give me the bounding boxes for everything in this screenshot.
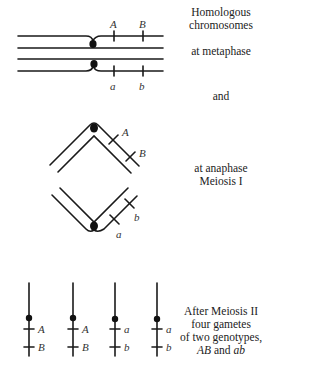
genotype-ab: ab <box>233 344 245 356</box>
label-gamete-3-locus1: a <box>124 323 130 335</box>
caption-anaphase: at anaphase Meiosis I <box>156 162 286 188</box>
centromere-icon <box>26 315 32 321</box>
label-anaphase-a: a <box>116 228 122 240</box>
caption-line: After Meiosis II <box>156 305 286 318</box>
caption-line: chromosomes <box>156 19 286 32</box>
centromere-icon <box>89 40 96 48</box>
caption-metaphase: Homologous chromosomes at metaphase <box>156 6 286 58</box>
label-gamete-1-locus1: A <box>37 323 45 335</box>
caption-and: and <box>211 344 233 356</box>
centromere-icon <box>90 124 98 133</box>
caption-connector: and <box>156 90 286 103</box>
caption-line: Homologous <box>156 6 286 19</box>
centromere-icon <box>90 60 97 68</box>
label-metaphase-b: b <box>139 80 145 92</box>
lower-inner-chromatid <box>60 188 128 222</box>
metaphase-chromosomes <box>18 31 163 76</box>
label-metaphase-a: a <box>110 80 116 92</box>
caption-line: AB and ab <box>156 344 286 357</box>
caption-line: at metaphase <box>156 45 286 58</box>
centromere-icon <box>70 315 76 321</box>
caption-line: and <box>156 90 286 103</box>
label-metaphase-A: A <box>109 18 117 30</box>
caption-line: of two genotypes, <box>156 331 286 344</box>
centromere-icon <box>112 316 118 322</box>
caption-line: Meiosis I <box>156 175 286 188</box>
chromatid-bottom-2 <box>18 66 163 71</box>
label-gamete-2-locus1: A <box>81 323 89 335</box>
genotype-AB: AB <box>197 344 211 356</box>
label-gamete-2-locus2: B <box>82 341 89 353</box>
label-anaphase-A: A <box>121 126 129 138</box>
centromere-icon <box>90 222 98 231</box>
label-anaphase-B: B <box>139 147 146 159</box>
label-metaphase-B: B <box>139 18 146 30</box>
caption-line: four gametes <box>156 318 286 331</box>
chromatid-top-1 <box>18 36 163 41</box>
caption-meiosis-2: After Meiosis II four gametes of two gen… <box>156 305 286 357</box>
label-gamete-1-locus2: B <box>38 341 45 353</box>
upper-inner-chromatid <box>58 136 131 173</box>
label-gamete-3-locus2: b <box>124 341 130 353</box>
label-anaphase-b: b <box>134 211 140 223</box>
caption-line: at anaphase <box>156 162 286 175</box>
